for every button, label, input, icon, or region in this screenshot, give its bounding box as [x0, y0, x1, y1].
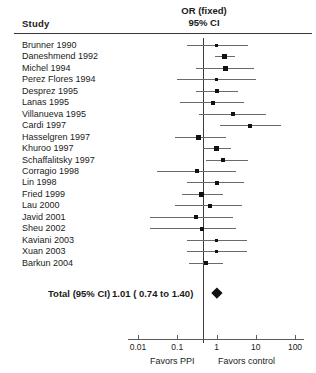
- effect-marker: [215, 78, 218, 81]
- study-label: Brunner 1990: [22, 40, 77, 50]
- confidence-interval-line: [150, 217, 233, 218]
- study-label: Daneshmend 1992: [22, 51, 98, 61]
- effect-title-line2: 95% CI: [168, 17, 240, 29]
- effect-marker: [211, 101, 215, 105]
- study-label: Sheu 2002: [22, 223, 66, 233]
- column-header-study: Study: [22, 18, 49, 29]
- axis-tick: [138, 335, 139, 339]
- null-effect-line: [203, 38, 204, 343]
- study-label: Khuroo 1997: [22, 143, 74, 153]
- axis-tick: [177, 335, 178, 339]
- confidence-interval-line: [150, 228, 237, 229]
- axis-tick-label: 0.1: [157, 342, 197, 352]
- axis-tick: [295, 335, 296, 339]
- effect-marker: [215, 89, 219, 93]
- effect-marker: [194, 215, 198, 219]
- study-label: Cardi 1997: [22, 120, 66, 130]
- study-label: Desprez 1995: [22, 86, 78, 96]
- favors-left-label: Favors PPI: [150, 356, 195, 366]
- study-label: Javid 2001: [22, 212, 66, 222]
- study-label: Hasselgren 1997: [22, 132, 90, 142]
- effect-marker: [222, 54, 227, 59]
- study-label: Schaffalitsky 1997: [22, 155, 95, 165]
- study-label: Kaviani 2003: [22, 235, 74, 245]
- study-label: Michel 1994: [22, 63, 71, 73]
- forest-plot: Study OR (fixed) 95% CI Brunner 1990Dane…: [0, 0, 316, 373]
- effect-marker: [215, 239, 218, 242]
- effect-marker: [200, 227, 204, 231]
- axis-tick-label: 10: [236, 342, 276, 352]
- total-label: Total (95% CI): [48, 288, 110, 299]
- study-label: Villanueva 1995: [22, 109, 86, 119]
- effect-marker: [231, 112, 235, 116]
- study-label: Lin 1998: [22, 177, 57, 187]
- axis-tick: [217, 335, 218, 339]
- effect-marker: [215, 44, 218, 47]
- effect-marker: [221, 158, 225, 162]
- study-label: Fried 1999: [22, 189, 65, 199]
- effect-title-line1: OR (fixed): [168, 5, 240, 17]
- effect-marker: [208, 204, 212, 208]
- favors-right-label: Favors control: [218, 356, 275, 366]
- effect-marker: [215, 250, 218, 253]
- effect-marker: [204, 261, 208, 265]
- total-value: 1.01 ( 0.74 to 1.40): [112, 288, 193, 299]
- column-header-effect: OR (fixed) 95% CI: [168, 5, 240, 28]
- effect-marker: [223, 66, 228, 71]
- effect-marker: [199, 192, 204, 197]
- effect-marker: [214, 146, 219, 151]
- effect-marker: [195, 169, 199, 173]
- effect-marker: [196, 135, 201, 140]
- axis-tick-label: 1: [197, 342, 237, 352]
- confidence-interval-line: [206, 160, 248, 161]
- x-axis-line: [128, 339, 304, 340]
- axis-tick-label: 100: [275, 342, 315, 352]
- study-label: Xuan 2003: [22, 246, 66, 256]
- axis-tick: [256, 335, 257, 339]
- axis-tick-label: 0.01: [118, 342, 158, 352]
- study-label: Lau 2000: [22, 200, 60, 210]
- effect-marker: [248, 124, 252, 128]
- study-label: Lanas 1995: [22, 97, 69, 107]
- header-divider: [14, 33, 312, 34]
- study-label: Barkun 2004: [22, 258, 73, 268]
- effect-marker: [215, 181, 219, 185]
- study-label: Corragio 1998: [22, 166, 79, 176]
- study-label: Perez Flores 1994: [22, 74, 96, 84]
